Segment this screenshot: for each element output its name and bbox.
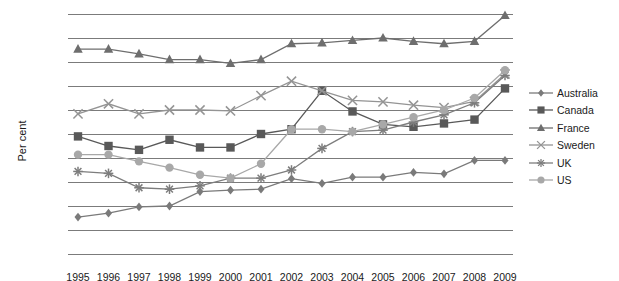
data-point-x <box>256 91 265 100</box>
data-point-circle <box>257 160 265 168</box>
data-point-star <box>73 167 83 177</box>
data-point-triangle <box>73 44 83 53</box>
series-line <box>78 88 505 149</box>
legend-marker-triangle-icon <box>528 121 554 135</box>
data-point-square <box>104 142 112 150</box>
data-point-diamond <box>379 173 386 182</box>
data-point-square <box>470 115 478 123</box>
data-point-square <box>226 143 234 151</box>
legend-item-australia[interactable]: Australia <box>528 84 618 102</box>
data-point-diamond <box>349 173 356 182</box>
data-point-diamond <box>288 174 295 183</box>
data-point-diamond <box>318 179 325 188</box>
data-point-diamond <box>471 156 478 165</box>
plot-area: 9.59.08.58.07.57.06.56.05.55.04.5 199519… <box>68 14 513 254</box>
data-point-diamond <box>166 202 173 211</box>
data-point-star <box>256 173 266 183</box>
data-point-square <box>501 84 509 92</box>
data-point-circle <box>537 177 544 184</box>
legend-label: US <box>554 174 572 186</box>
chart-container: Per cent 9.59.08.58.07.57.06.56.05.55.04… <box>0 0 619 281</box>
data-point-circle <box>165 163 173 171</box>
legend-item-canada[interactable]: Canada <box>528 102 618 120</box>
legend-item-france[interactable]: France <box>528 119 618 137</box>
data-point-circle <box>196 171 204 179</box>
data-point-diamond <box>501 156 508 165</box>
x-axis-tick-label: 2009 <box>485 272 525 281</box>
data-point-diamond <box>257 185 264 194</box>
data-point-x <box>104 99 113 108</box>
data-point-x <box>73 109 82 118</box>
data-point-diamond <box>74 213 81 222</box>
legend-marker-diamond-icon <box>528 86 554 100</box>
data-point-triangle <box>195 55 205 64</box>
data-point-square <box>135 146 143 154</box>
data-point-star <box>537 159 545 167</box>
data-point-star <box>195 181 205 191</box>
legend-marker-square-icon <box>528 103 554 117</box>
data-point-square <box>348 107 356 115</box>
data-point-triangle <box>500 10 510 19</box>
data-point-diamond <box>135 203 142 212</box>
legend-item-uk[interactable]: UK <box>528 154 618 172</box>
data-point-circle <box>287 125 295 133</box>
data-point-circle <box>226 174 234 182</box>
data-point-circle <box>470 94 478 102</box>
data-point-circle <box>379 120 387 128</box>
legend-item-sweden[interactable]: Sweden <box>528 137 618 155</box>
legend-label: Sweden <box>554 139 595 151</box>
legend-marker-x-icon <box>528 138 554 152</box>
data-point-star <box>287 165 297 175</box>
data-point-star <box>104 169 114 179</box>
data-point-x <box>287 77 296 86</box>
data-point-circle <box>409 113 417 121</box>
data-point-square <box>440 119 448 127</box>
data-point-circle <box>318 125 326 133</box>
data-point-diamond <box>440 169 447 178</box>
y-axis-label: Per cent <box>16 121 28 162</box>
legend-label: France <box>554 122 590 134</box>
data-point-circle <box>74 150 82 158</box>
data-point-circle <box>501 66 509 74</box>
data-point-star <box>317 144 327 154</box>
data-point-circle <box>348 127 356 135</box>
legend-marker-star-icon <box>528 156 554 170</box>
data-point-triangle <box>256 55 266 64</box>
data-point-diamond <box>105 209 112 218</box>
series-layer <box>68 14 513 254</box>
gridline <box>68 254 513 255</box>
legend-label: Canada <box>554 104 594 116</box>
data-point-diamond <box>410 168 417 177</box>
data-point-star <box>134 183 144 193</box>
data-point-circle <box>440 106 448 114</box>
data-point-diamond <box>227 186 234 195</box>
data-point-triangle <box>378 33 388 42</box>
data-point-circle <box>135 157 143 165</box>
data-point-square <box>196 143 204 151</box>
data-point-diamond <box>538 89 544 96</box>
legend-item-us[interactable]: US <box>528 172 618 190</box>
data-point-square <box>74 132 82 140</box>
data-point-triangle <box>104 44 114 53</box>
y-axis-label-wrap: Per cent <box>4 98 22 184</box>
data-point-square <box>257 130 265 138</box>
legend: AustraliaCanadaFranceSwedenUKUS <box>528 84 618 189</box>
legend-marker-circle-icon <box>528 173 554 187</box>
series-france <box>73 10 510 67</box>
data-point-square <box>165 136 173 144</box>
data-point-circle <box>104 150 112 158</box>
data-point-triangle <box>470 36 480 45</box>
data-point-star <box>165 184 175 194</box>
legend-label: UK <box>554 157 572 169</box>
legend-label: Australia <box>554 87 598 99</box>
data-point-square <box>537 107 544 114</box>
